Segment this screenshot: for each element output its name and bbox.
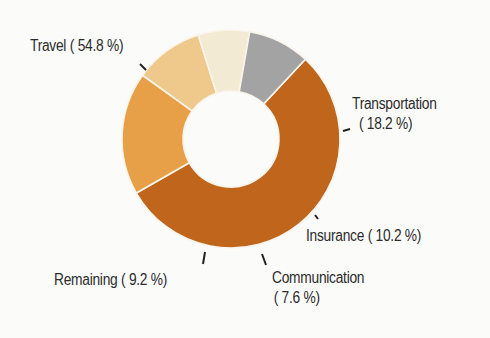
label-travel: Travel ( 54.8 %)	[30, 36, 123, 56]
label-communication: Communication ( 7.6 %)	[272, 268, 364, 308]
leader-tick-remaining	[203, 252, 205, 264]
label-travel-text: Travel ( 54.8 %)	[30, 37, 123, 54]
label-transportation: Transportation ( 18.2 %)	[352, 94, 437, 134]
label-insurance: Insurance ( 10.2 %)	[306, 226, 421, 246]
label-transportation-value: ( 18.2 %)	[352, 114, 437, 134]
label-transportation-name: Transportation	[352, 94, 437, 114]
label-communication-name: Communication	[272, 268, 364, 288]
donut-chart: Travel ( 54.8 %) Transportation ( 18.2 %…	[0, 0, 490, 338]
label-remaining-text: Remaining ( 9.2 %)	[54, 271, 167, 288]
label-remaining: Remaining ( 9.2 %)	[54, 270, 167, 290]
leader-tick-insurance	[315, 215, 318, 219]
leader-tick-transportation	[343, 129, 350, 131]
label-insurance-text: Insurance ( 10.2 %)	[306, 227, 421, 244]
label-communication-value: ( 7.6 %)	[272, 288, 364, 308]
leader-tick-communication	[262, 254, 266, 265]
leader-tick-travel	[140, 64, 146, 70]
